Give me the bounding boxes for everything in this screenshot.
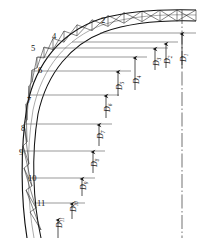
svg-text:D8: D8 <box>90 158 100 168</box>
dim-D8-label: D8 <box>90 158 100 168</box>
dim-D11-label: D11 <box>55 217 65 229</box>
svg-text:D3: D3 <box>152 57 162 67</box>
node-2-label: 2 <box>101 15 105 25</box>
node-5-label: 5 <box>31 43 35 53</box>
diagram-canvas: 24567891011 D1D2D3D4D5D6D7D8D9D10D11 <box>0 0 208 244</box>
svg-text:D11: D11 <box>55 217 65 229</box>
svg-text:D2: D2 <box>163 55 173 65</box>
truss-inner-chord <box>34 21 196 238</box>
node-9-label: 9 <box>19 147 23 157</box>
node-7-label: 7 <box>27 95 31 105</box>
svg-text:D6: D6 <box>103 103 113 113</box>
truss-lattice-web <box>23 10 196 230</box>
svg-text:D7: D7 <box>96 130 106 140</box>
dim-D1-label: D1 <box>179 53 189 63</box>
dim-D10-label: D10 <box>69 201 79 213</box>
svg-text:D5: D5 <box>115 81 125 91</box>
node-10-label: 10 <box>28 173 37 183</box>
truss-dimension-diagram: 24567891011 D1D2D3D4D5D6D7D8D9D10D11 <box>0 0 208 244</box>
dim-D4-label: D4 <box>132 75 142 85</box>
svg-text:D10: D10 <box>69 201 79 213</box>
dim-D5-label: D5 <box>115 81 125 91</box>
node-number-labels: 24567891011 <box>19 15 105 208</box>
dim-D2-label: D2 <box>163 55 173 65</box>
dim-D9-label: D9 <box>79 181 89 191</box>
dim-D3-label: D3 <box>152 57 162 67</box>
node-6-label: 6 <box>38 65 42 75</box>
node-8-label: 8 <box>21 123 25 133</box>
dim-D6-label: D6 <box>103 103 113 113</box>
dimension-value-labels: D1D2D3D4D5D6D7D8D9D10D11 <box>55 53 189 229</box>
dim-D7-label: D7 <box>96 130 106 140</box>
node-11-label: 11 <box>37 198 45 208</box>
svg-text:D1: D1 <box>179 53 189 63</box>
svg-text:D4: D4 <box>132 75 142 85</box>
svg-text:D9: D9 <box>79 181 89 191</box>
